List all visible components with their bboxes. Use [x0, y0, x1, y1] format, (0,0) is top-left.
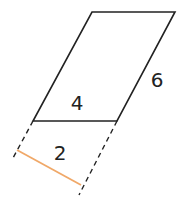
height-label: 2 [54, 141, 67, 165]
diagram-canvas: 6 4 2 [0, 0, 188, 200]
base-label: 4 [71, 91, 84, 115]
side-label: 6 [151, 68, 164, 92]
parallelogram-shape [33, 12, 175, 121]
height-segment [17, 150, 81, 185]
right-dashed-extension [79, 121, 117, 195]
